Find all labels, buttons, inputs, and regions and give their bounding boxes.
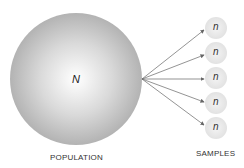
samples-label: SAMPLES xyxy=(196,149,235,158)
population-symbol: N xyxy=(72,73,80,85)
arrows xyxy=(142,30,204,125)
sample-symbol: n xyxy=(213,96,219,107)
sample-symbol: n xyxy=(213,121,219,132)
sampling-diagram xyxy=(0,0,244,168)
population-label: POPULATION xyxy=(50,153,103,162)
sample-symbol: n xyxy=(213,21,219,32)
sample-symbol: n xyxy=(213,46,219,57)
sample-symbol: n xyxy=(213,71,219,82)
